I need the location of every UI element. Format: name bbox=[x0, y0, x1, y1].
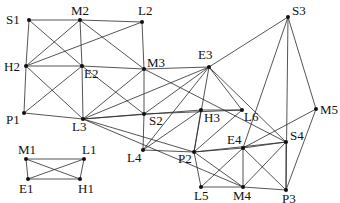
node-label-l2: L2 bbox=[138, 3, 152, 18]
node-label-m3: M3 bbox=[147, 55, 165, 70]
node-m5 bbox=[314, 107, 318, 111]
node-label-h3: H3 bbox=[204, 110, 220, 125]
node-label-s3: S3 bbox=[292, 3, 306, 18]
node-l4 bbox=[141, 148, 145, 152]
node-s2 bbox=[142, 112, 146, 116]
node-label-p1: P1 bbox=[6, 112, 20, 127]
node-p2 bbox=[192, 150, 196, 154]
edge-l3-p2 bbox=[83, 119, 194, 152]
edge-h2-p1 bbox=[24, 66, 26, 113]
node-m3 bbox=[142, 67, 146, 71]
node-s3 bbox=[286, 15, 290, 19]
edge-s3-e4 bbox=[243, 17, 288, 148]
node-label-s2: S2 bbox=[149, 113, 163, 128]
node-label-s4: S4 bbox=[290, 128, 304, 143]
node-m1 bbox=[24, 157, 28, 161]
edge-l2-h2 bbox=[26, 22, 142, 66]
edge-p2-l5 bbox=[194, 152, 201, 187]
edge-m3-s4 bbox=[144, 69, 286, 142]
edge-l2-m3 bbox=[142, 22, 144, 69]
node-l1 bbox=[82, 157, 86, 161]
node-label-e4: E4 bbox=[227, 132, 242, 147]
node-l2 bbox=[140, 20, 144, 24]
edge-l1-h1 bbox=[80, 159, 84, 179]
node-label-p2: P2 bbox=[178, 151, 192, 166]
node-e3 bbox=[207, 65, 211, 69]
edge-e4-p3 bbox=[243, 148, 286, 190]
node-label-l4: L4 bbox=[127, 150, 142, 165]
edge-m2-e2 bbox=[80, 20, 82, 66]
node-label-e1: E1 bbox=[19, 181, 33, 196]
node-label-h2: H2 bbox=[4, 59, 20, 74]
node-h3 bbox=[199, 108, 203, 112]
edge-s4-m4 bbox=[243, 142, 286, 187]
edge-e3-l6 bbox=[209, 67, 242, 110]
edge-m2-m3 bbox=[80, 20, 144, 69]
edge-m1-h1 bbox=[26, 159, 80, 179]
node-e4 bbox=[241, 146, 245, 150]
node-m2 bbox=[78, 18, 82, 22]
node-label-e3: E3 bbox=[198, 47, 212, 62]
edge-s1-e2 bbox=[29, 20, 82, 66]
node-label-s1: S1 bbox=[6, 12, 20, 27]
edge-m2-l2 bbox=[80, 20, 142, 22]
edge-m1-e1 bbox=[26, 159, 28, 179]
edge-s3-m5 bbox=[288, 17, 316, 109]
node-label-l1: L1 bbox=[82, 142, 96, 157]
node-label-l3: L3 bbox=[72, 119, 86, 134]
node-label-m2: M2 bbox=[71, 3, 89, 18]
edge-m2-h2 bbox=[26, 20, 80, 66]
node-label-m5: M5 bbox=[320, 102, 338, 117]
edge-e4-l5 bbox=[201, 148, 243, 187]
node-label-l6: L6 bbox=[244, 109, 259, 124]
edge-h2-l3 bbox=[26, 66, 83, 119]
node-p1 bbox=[22, 111, 26, 115]
node-label-h1: H1 bbox=[78, 181, 94, 196]
node-label-e2: E2 bbox=[84, 66, 98, 81]
node-s1 bbox=[27, 18, 31, 22]
edge-l3-m4 bbox=[83, 119, 243, 187]
node-label-m1: M1 bbox=[18, 142, 36, 157]
edge-e2-l3 bbox=[82, 66, 83, 119]
edge-p1-e2 bbox=[24, 66, 82, 113]
node-s4 bbox=[284, 140, 288, 144]
node-label-p3: P3 bbox=[282, 191, 296, 203]
edge-s1-h2 bbox=[26, 20, 29, 66]
edge-h3-p2 bbox=[194, 110, 201, 152]
node-label-l5: L5 bbox=[194, 188, 208, 203]
node-label-m4: M4 bbox=[233, 188, 252, 203]
edges-layer bbox=[24, 17, 316, 190]
edge-l4-e3 bbox=[143, 67, 209, 150]
node-h2 bbox=[24, 64, 28, 68]
edge-e3-s3 bbox=[209, 17, 288, 67]
graph-diagram: S1M2L2H2E2M3P1L3S2E3S3H3L6M5L4P2E4S4L5M4… bbox=[0, 0, 340, 203]
edge-l1-e1 bbox=[28, 159, 84, 179]
edge-m5-p3 bbox=[286, 109, 316, 190]
